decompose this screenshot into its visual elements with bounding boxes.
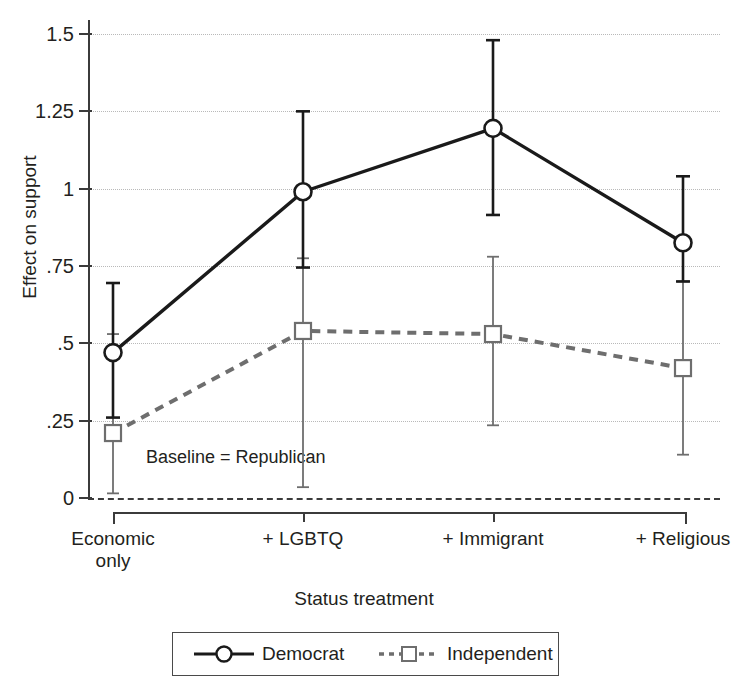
x-axis-category-label: + Religious <box>598 528 735 550</box>
y-tick-mark <box>79 342 92 344</box>
y-tick-label: .75 <box>46 256 74 276</box>
y-axis-title: Effect on support <box>19 127 41 327</box>
baseline-reference-line <box>88 498 720 500</box>
x-axis-bracket <box>113 512 687 524</box>
legend: DemocratIndependent <box>172 632 559 676</box>
gridline <box>90 343 720 344</box>
legend-item-label: Democrat <box>262 643 344 665</box>
error-bars-democrat <box>106 40 690 417</box>
x-tick-mark <box>493 512 495 522</box>
legend-item-democrat: Democrat <box>193 641 344 667</box>
y-tick-label: .5 <box>57 333 74 353</box>
gridline <box>90 266 720 267</box>
gridline <box>90 189 720 190</box>
y-tick-label: .25 <box>46 411 74 431</box>
y-tick-label: 1.25 <box>35 101 74 121</box>
y-tick-mark <box>79 265 92 267</box>
y-axis-line <box>88 20 90 500</box>
legend-item-independent: Independent <box>378 641 553 667</box>
series-democrat <box>105 120 692 361</box>
x-tick-mark <box>303 512 305 522</box>
y-tick-label: 1 <box>63 179 74 199</box>
baseline-annotation: Baseline = Republican <box>146 447 326 468</box>
y-tick-mark <box>79 33 92 35</box>
x-axis-category-label: + LGBTQ <box>218 528 388 550</box>
y-tick-mark <box>79 110 92 112</box>
y-tick-label: 0 <box>63 488 74 508</box>
y-tick-label: 1.5 <box>46 24 74 44</box>
gridline <box>90 111 720 112</box>
x-axis-category-label: Economiconly <box>28 528 198 572</box>
series-independent <box>105 323 691 441</box>
legend-item-label: Independent <box>447 643 553 665</box>
gridline <box>90 421 720 422</box>
open-circle-icon <box>193 643 255 665</box>
x-axis-title: Status treatment <box>0 588 728 610</box>
gridline <box>90 34 720 35</box>
y-tick-mark <box>79 420 92 422</box>
open-square-icon <box>378 643 440 665</box>
y-tick-mark <box>79 188 92 190</box>
x-axis-category-label: + Immigrant <box>408 528 578 550</box>
